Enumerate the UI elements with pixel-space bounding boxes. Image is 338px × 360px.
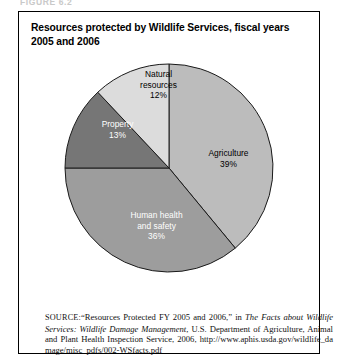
source-label: SOURCE:: [45, 313, 81, 322]
pie-chart-graphic: Agriculture 39% Human health and safety …: [63, 62, 275, 274]
figure-number-label: FIGURE 6.2: [20, 0, 72, 6]
pie-chart: Agriculture 39% Human health and safety …: [19, 62, 318, 297]
pie-slice-group: [65, 64, 273, 272]
source-text-part1: “Resources Protected FY 2005 and 2006,” …: [81, 312, 245, 322]
pie-svg: [63, 62, 275, 274]
figure-border-box: Resources protected by Wildlife Services…: [18, 11, 320, 354]
figure-page: FIGURE 6.2 Resources protected by Wildli…: [0, 0, 338, 360]
page-title: Resources protected by Wildlife Services…: [31, 21, 303, 48]
source-citation: SOURCE:“Resources Protected FY 2005 and …: [45, 312, 333, 355]
